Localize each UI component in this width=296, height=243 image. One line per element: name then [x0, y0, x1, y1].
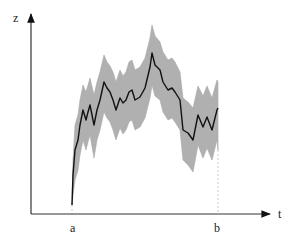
confidence-band — [72, 25, 218, 205]
tick-label-b: b — [214, 221, 220, 235]
y-axis-label: z — [13, 11, 18, 25]
x-axis-label: t — [278, 207, 282, 221]
chart-canvas: z t a b — [0, 0, 296, 243]
band-area — [72, 25, 218, 205]
boundary-guides — [72, 150, 218, 214]
tick-label-a: a — [70, 221, 76, 235]
